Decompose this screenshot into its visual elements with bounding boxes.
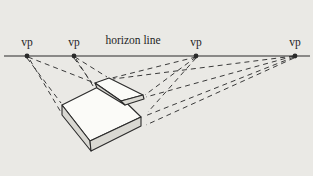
vanishing-points: vpvpvpvp xyxy=(21,36,301,58)
vp-label: vp xyxy=(190,36,202,49)
vanishing-point-dot xyxy=(293,54,298,59)
construction-ray xyxy=(75,57,107,77)
vp-label: vp xyxy=(68,36,80,49)
vanishing-point-dot xyxy=(194,54,199,59)
figure-canvas: vpvpvpvp horizon line xyxy=(0,0,313,176)
construction-ray xyxy=(27,58,61,103)
construction-ray xyxy=(112,57,196,78)
vanishing-point-dot xyxy=(25,54,30,59)
vanishing-point-dot xyxy=(72,54,77,59)
vp-label: vp xyxy=(21,36,33,49)
construction-ray xyxy=(146,56,294,97)
construction-ray xyxy=(145,57,196,95)
vp-label: vp xyxy=(289,36,301,49)
construction-ray xyxy=(146,58,294,125)
horizon-line-label: horizon line xyxy=(105,34,160,46)
perspective-diagram: vpvpvpvp horizon line xyxy=(0,0,313,176)
